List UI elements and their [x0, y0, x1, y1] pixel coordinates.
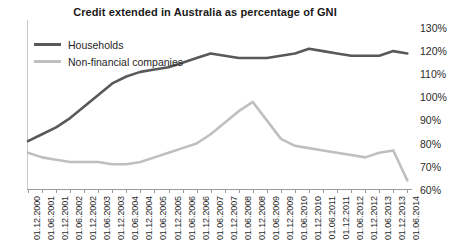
legend-label: Non-financial companies [68, 56, 183, 68]
legend-item: Households [34, 36, 183, 53]
chart-screenshot: Credit extended in Australia as percenta… [0, 0, 470, 250]
series-line [28, 102, 407, 181]
legend-color-swatch [34, 60, 61, 63]
legend-color-swatch [34, 43, 61, 46]
legend-item: Non-financial companies [34, 53, 183, 70]
legend-label: Households [68, 39, 123, 51]
chart-legend: HouseholdsNon-financial companies [34, 36, 183, 70]
